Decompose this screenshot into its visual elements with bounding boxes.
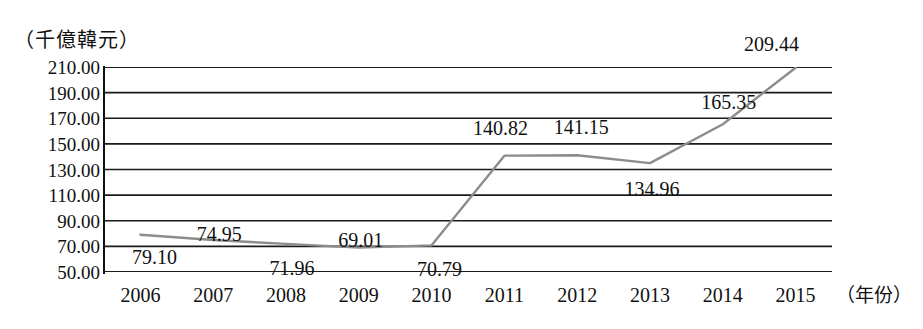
x-tick-label: 2009 [339, 283, 379, 307]
y-tick-label: 90.00 [6, 212, 100, 231]
x-tick-label: 2010 [412, 283, 452, 307]
data-point-label: 141.15 [554, 117, 609, 137]
y-tick-label: 190.00 [6, 84, 100, 103]
line-chart: （千億韓元） 210.00190.00170.00150.00130.00110… [0, 0, 923, 329]
y-tick-label: 110.00 [6, 186, 100, 205]
x-axis-tick-labels: 2006200720082009201020112012201320142015 [104, 283, 832, 311]
x-tick-label: 2013 [630, 283, 670, 307]
x-tick-label: 2007 [193, 283, 233, 307]
x-tick-label: 2008 [266, 283, 306, 307]
y-axis-unit-label: （千億韓元） [14, 24, 140, 53]
x-axis-unit-label: （年份） [836, 283, 912, 307]
y-tick-label: 170.00 [6, 109, 100, 128]
data-point-label: 71.96 [270, 258, 315, 278]
data-point-label: 74.95 [197, 224, 242, 244]
data-point-label: 134.96 [625, 179, 680, 199]
y-tick-label: 50.00 [6, 263, 100, 282]
y-tick-label: 130.00 [6, 161, 100, 180]
x-tick-label: 2014 [703, 283, 743, 307]
y-tick-label: 70.00 [6, 237, 100, 256]
data-point-label: 69.01 [338, 230, 383, 250]
x-tick-label: 2015 [776, 283, 816, 307]
x-tick-label: 2006 [120, 283, 160, 307]
data-point-label: 70.79 [417, 259, 462, 279]
data-point-label: 140.82 [473, 118, 528, 138]
data-point-label: 165.35 [701, 92, 756, 112]
data-point-label: 79.10 [132, 247, 177, 267]
y-tick-label: 210.00 [6, 58, 100, 77]
data-point-label: 209.44 [744, 34, 799, 54]
x-tick-label: 2011 [485, 283, 524, 307]
y-axis-tick-labels: 210.00190.00170.00150.00130.00110.0090.0… [6, 57, 100, 282]
x-tick-label: 2012 [557, 283, 597, 307]
y-tick-label: 150.00 [6, 135, 100, 154]
